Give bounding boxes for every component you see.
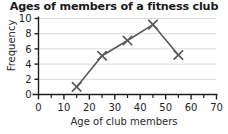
x-axis-tick-label: 50 xyxy=(159,102,172,113)
data-point-marker[interactable] xyxy=(123,36,131,44)
y-axis-tick-label: 8 xyxy=(25,28,31,39)
data-point-marker[interactable] xyxy=(149,20,157,28)
x-axis-tick-label: 40 xyxy=(134,102,147,113)
x-axis-tick-label: 30 xyxy=(108,102,121,113)
y-axis-tick-label: 2 xyxy=(25,74,31,85)
y-axis-tick-label: 6 xyxy=(25,44,31,55)
x-axis-tick-label: 60 xyxy=(185,102,198,113)
x-axis-tick-label: 10 xyxy=(58,102,71,113)
data-point-marker[interactable] xyxy=(98,52,106,60)
data-point-marker[interactable] xyxy=(174,51,182,59)
chart-plot: 0246810010203040506070 xyxy=(0,0,228,134)
chart-screenshot: Ages of members of a fitness club Freque… xyxy=(0,0,228,134)
y-axis-tick-label: 0 xyxy=(25,89,31,100)
data-point-marker[interactable] xyxy=(72,83,80,91)
y-axis-tick-label: 10 xyxy=(19,13,32,24)
x-axis-tick-label: 0 xyxy=(35,102,41,113)
y-axis-tick-label: 4 xyxy=(25,59,31,70)
x-axis-tick-label: 20 xyxy=(83,102,96,113)
x-axis-tick-label: 70 xyxy=(210,102,223,113)
